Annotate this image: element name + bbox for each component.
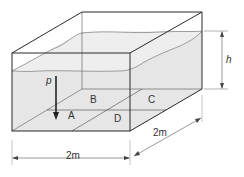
arrow-down-icon xyxy=(220,83,224,89)
arrow-down-left-icon xyxy=(134,151,140,156)
height-label: h xyxy=(226,55,232,65)
region-d-label: D xyxy=(114,114,121,124)
region-b-label: B xyxy=(90,95,97,105)
depth-dimension-line xyxy=(134,118,201,156)
arrow-up-icon xyxy=(220,31,224,37)
arrow-up-right-icon xyxy=(195,118,201,123)
tank-diagram xyxy=(0,0,244,177)
region-a-label: A xyxy=(68,111,75,121)
region-c-label: C xyxy=(148,95,155,105)
pressure-label: p xyxy=(46,76,52,86)
arrow-left-icon xyxy=(12,156,18,160)
arrow-right-icon xyxy=(124,156,130,160)
width-label: 2m xyxy=(66,151,80,161)
depth-label: 2m xyxy=(153,128,167,138)
